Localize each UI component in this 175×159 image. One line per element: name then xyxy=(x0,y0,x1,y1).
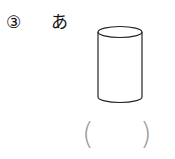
cylinder-top-ellipse xyxy=(98,27,142,38)
answer-paren-open: ( xyxy=(82,119,94,149)
cylinder-figure xyxy=(95,24,147,108)
answer-blank[interactable] xyxy=(96,122,140,150)
cylinder-bottom-arc xyxy=(98,97,142,103)
answer-paren-close: ) xyxy=(140,119,152,149)
problem-number: ③ xyxy=(6,14,21,31)
item-label: あ xyxy=(51,14,68,31)
